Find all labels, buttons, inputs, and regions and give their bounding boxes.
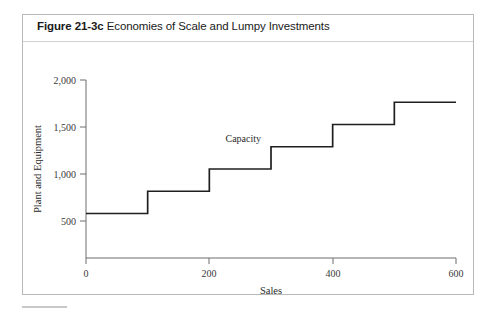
y-tick-label-500: 500	[61, 216, 76, 227]
y-axis-ticks	[80, 80, 86, 221]
capacity-step-line	[86, 102, 456, 213]
x-tick-label-600: 600	[449, 268, 464, 279]
x-tick-label-200: 200	[202, 268, 217, 279]
capacity-annotation-label: Capacity	[225, 133, 261, 144]
y-tick-label-1500: 1,500	[54, 122, 77, 133]
x-tick-label-0: 0	[84, 268, 89, 279]
figure-header: Figure 21-3c Economies of Scale and Lump…	[23, 15, 473, 42]
x-axis-title: Sales	[260, 285, 282, 296]
y-axis-title: Plant and Equipment	[32, 125, 43, 213]
figure-title: Figure 21-3c Economies of Scale and Lump…	[37, 20, 330, 32]
footer-rule	[22, 306, 67, 308]
y-tick-label-2000: 2,000	[54, 75, 77, 86]
x-tick-label-400: 400	[326, 268, 341, 279]
plot-area: 2,000 1,500 1,000 500 0 200 400 600 Sale…	[23, 42, 473, 294]
figure-panel: Figure 21-3c Economies of Scale and Lump…	[22, 14, 474, 295]
y-tick-label-1000: 1,000	[54, 169, 77, 180]
figure-caption-text: Economies of Scale and Lumpy Investments	[107, 20, 330, 32]
x-axis-ticks	[86, 258, 456, 264]
figure-number: Figure 21-3c	[37, 20, 104, 32]
economies-of-scale-step-chart: 2,000 1,500 1,000 500 0 200 400 600 Sale…	[23, 42, 475, 296]
